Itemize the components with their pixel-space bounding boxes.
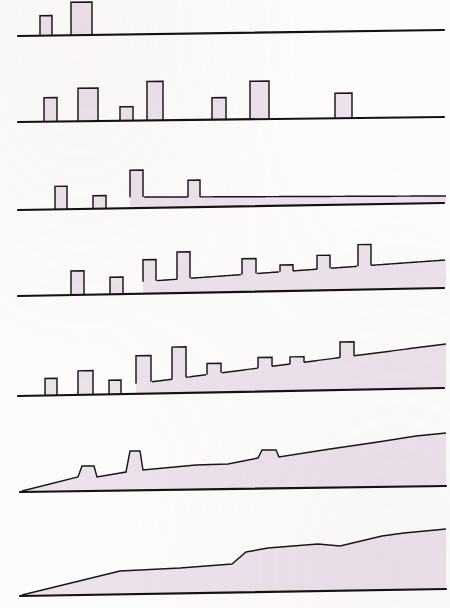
- bar-fill: [78, 88, 98, 121]
- bar-fill: [188, 180, 200, 207]
- bar-fill: [207, 363, 221, 392]
- panel-1-sparse-spikes: [0, 0, 450, 60]
- panel-7-smooth-filled-wedge: [0, 510, 450, 608]
- bar-fill: [335, 93, 352, 118]
- bar-fill: [172, 347, 186, 393]
- bar-fill: [40, 16, 52, 36]
- bar-fill: [93, 196, 106, 209]
- panel-5-bars-on-rising-wedge: [0, 330, 450, 402]
- bar-fill: [71, 2, 92, 35]
- band-top-edge: [200, 196, 446, 197]
- figure-root: [0, 0, 450, 608]
- bar-fill: [120, 107, 133, 121]
- bar-fill: [280, 265, 293, 291]
- bar-fill: [317, 255, 330, 290]
- panel-6-wedge-with-two-spikes: [0, 420, 450, 500]
- bar-fill: [258, 357, 272, 391]
- bar-fill: [177, 252, 190, 293]
- bar-fill: [147, 81, 163, 120]
- panel-4-dense-bars-rising-band: [0, 240, 450, 302]
- bar-fill: [358, 244, 371, 289]
- panel-2-seven-spikes: [0, 70, 450, 128]
- bar-fill: [242, 259, 256, 292]
- bar-fill: [143, 259, 156, 293]
- bar-fill: [130, 170, 143, 208]
- bar-fill: [250, 81, 269, 119]
- bar-fill: [290, 357, 304, 391]
- bar-fill: [55, 186, 67, 209]
- panel-3-spikes-with-thin-band: [0, 160, 450, 218]
- bar-fill: [45, 378, 57, 395]
- bar-fill: [340, 342, 354, 390]
- bar-fill: [136, 356, 151, 394]
- bar-fill: [44, 98, 57, 122]
- bar-fill: [110, 277, 123, 294]
- bar-fill: [78, 371, 93, 395]
- bar-fill: [71, 271, 84, 295]
- bar-fill: [212, 98, 226, 120]
- bar-fill: [109, 380, 121, 394]
